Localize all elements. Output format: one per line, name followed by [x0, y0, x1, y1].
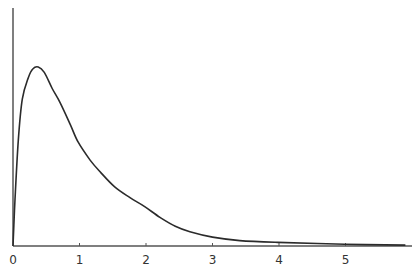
x-tick-label: 3 — [209, 253, 217, 267]
density-curve — [13, 67, 405, 246]
x-tick-label: 0 — [9, 253, 17, 267]
x-tick-label: 5 — [342, 253, 350, 267]
density-chart: 012345 — [0, 0, 418, 271]
x-tick-label: 1 — [76, 253, 84, 267]
x-tick-label: 2 — [142, 253, 150, 267]
x-tick-label: 4 — [275, 253, 283, 267]
x-axis-tick-labels: 012345 — [9, 253, 349, 267]
